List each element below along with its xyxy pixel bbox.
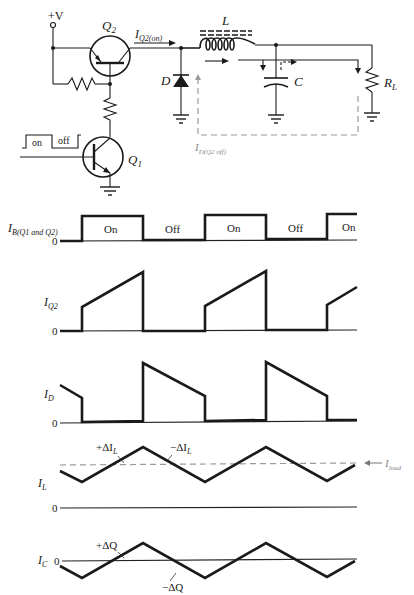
iq2-ylabel: IQ2 <box>43 295 58 311</box>
id-ylabel: ID <box>43 387 54 403</box>
ib-zero-label: 0 <box>52 235 58 247</box>
chart-iq2: IQ2 0 <box>43 271 357 337</box>
ib-segment-off: Off <box>165 223 180 235</box>
id-zero-label: 0 <box>52 417 58 429</box>
base-resistor <box>104 98 116 120</box>
iload-label: Iload <box>384 457 402 472</box>
iq2-label: IQ2(on) <box>134 27 162 43</box>
arrow-icon <box>169 40 176 46</box>
chart-ib: IB(Q1 and Q2) 0 On Off On Off On <box>7 214 357 247</box>
ib-segment-on: On <box>227 222 241 234</box>
inductor-label: L <box>221 13 229 28</box>
ic-zero-label: 0 <box>54 555 60 567</box>
q2-label: Q2 <box>102 18 116 35</box>
pulse-off-label: off <box>58 135 70 146</box>
supply-label: +V <box>48 9 64 23</box>
bias-resistor <box>68 78 95 90</box>
iload-reference-line <box>60 463 357 465</box>
chart-il: IL Iload +ΔIL −ΔIL 0 <box>37 441 402 514</box>
ib-segment-off: Off <box>288 222 303 234</box>
load-label: RL <box>383 75 397 92</box>
il-ylabel: IL <box>37 476 47 492</box>
load-resistor <box>364 45 380 121</box>
q1-label: Q1 <box>128 152 142 169</box>
pulse-on-label: on <box>32 137 42 148</box>
il-minus-annotation: −ΔIL <box>170 441 192 456</box>
id-waveform <box>60 362 357 422</box>
ic-minus-annotation: −ΔQ <box>162 581 183 593</box>
circuit-schematic: +V Q2 IQ2(on) <box>20 9 397 195</box>
pulse-waveform <box>22 135 81 148</box>
chart-ic: IC 0 +ΔQ −ΔQ <box>37 539 357 593</box>
diode-current-path <box>198 78 358 135</box>
ib-segment-on: On <box>342 221 356 233</box>
id-label: ID(Q2 off) <box>194 141 227 156</box>
diode-d <box>173 75 189 87</box>
ic-ylabel: IC <box>37 553 48 569</box>
diode-label: D <box>160 73 171 88</box>
ib-segment-on: On <box>104 223 118 235</box>
ic-plus-annotation: +ΔQ <box>96 539 117 551</box>
iq2-zero-label: 0 <box>52 325 58 337</box>
il-plus-annotation: +ΔIL <box>96 441 118 456</box>
il-zero-label: 0 <box>52 502 58 514</box>
switching-regulator-figure: +V Q2 IQ2(on) <box>0 0 414 595</box>
capacitor-c <box>264 45 288 123</box>
transistor-q2 <box>90 36 130 84</box>
capacitor-label: C <box>294 74 303 89</box>
iq2-waveform <box>60 271 357 331</box>
chart-id: ID 0 <box>43 362 357 429</box>
inductor-l <box>200 31 255 50</box>
ib-ylabel: IB(Q1 and Q2) <box>7 221 58 237</box>
supply-terminal <box>51 23 56 28</box>
